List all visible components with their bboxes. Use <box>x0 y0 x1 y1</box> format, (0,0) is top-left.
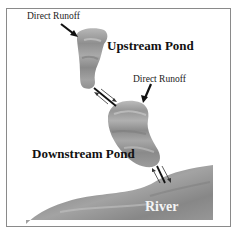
runoff-label-downstream: Direct Runoff <box>133 74 186 84</box>
downstream-pond-label: Downstream Pond <box>32 146 135 162</box>
runoff-arrow-upstream-icon <box>61 24 78 37</box>
upstream-pond-label: Upstream Pond <box>107 38 194 54</box>
river-label: River <box>145 199 178 215</box>
upstream-pond <box>77 28 107 88</box>
river <box>26 165 213 224</box>
exchange-arrows-ponds-icon <box>94 88 117 106</box>
runoff-label-upstream: Direct Runoff <box>27 11 80 21</box>
diagram-canvas <box>0 0 237 233</box>
runoff-arrow-downstream-icon <box>141 84 151 103</box>
